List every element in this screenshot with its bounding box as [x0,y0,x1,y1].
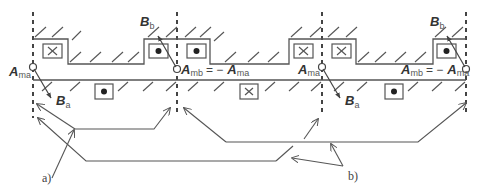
callout-a-label: a) [42,171,51,185]
conductor-dot-icon [385,84,403,99]
conductor-cross-icon [240,84,258,99]
path-b [304,119,318,139]
stator-hatching [35,27,463,62]
conductor-cross-icon [294,44,313,58]
conductor-dot-icon [187,44,206,58]
vector-Ba-2 [323,69,340,98]
stator-conductors [43,44,456,58]
label-A-ma-1: Ama [8,64,31,80]
label-B-a-1: Ba [56,93,70,110]
label-B-a-2: Ba [345,93,359,110]
label-A-ma-2: Ama [297,62,320,78]
conductor-dot-icon [95,84,113,99]
path-a-lower-tail [276,146,293,161]
conductor-cross-icon [332,44,351,58]
pointer-b-1 [292,158,343,166]
marker-circle-icon [174,66,181,73]
vector-Ba-1 [34,69,51,98]
path-b-main [184,108,226,142]
label-B-b-2: Bb [430,14,444,31]
conductor-dot-icon [149,44,168,58]
pointer-b-2 [331,144,343,166]
pointer-a [52,130,74,178]
periodicity-paths [37,103,466,161]
conductor-cross-icon [43,44,62,58]
path-b-line [226,103,466,142]
rotor-conductors [95,84,403,99]
callout-b-label: b) [348,169,358,183]
winding-diagram: Ama Ba Bb Amb= −Ama Ama Ba Bb Amb= −Ama … [0,0,481,193]
path-a-upper [75,108,170,129]
label-B-b-1: Bb [140,14,154,31]
label-A-mb-eq-2: Amb= −Ama [400,62,469,78]
callout-pointers [52,130,343,178]
